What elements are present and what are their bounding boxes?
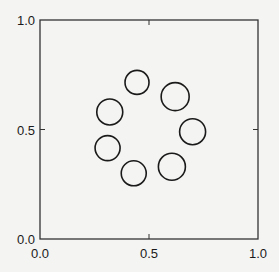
y-tick-label: 1.0 bbox=[17, 13, 35, 28]
x-axis-tick-labels: 0.00.51.0 bbox=[31, 246, 267, 261]
scatter-chart: 0.00.51.0 0.00.51.0 bbox=[0, 0, 279, 272]
open-circle-marker bbox=[121, 161, 146, 186]
open-circle-marker bbox=[158, 153, 185, 180]
open-circle-marker bbox=[97, 99, 123, 125]
x-tick-label: 0.0 bbox=[31, 246, 49, 261]
y-tick-label: 0.5 bbox=[17, 123, 35, 138]
open-circle-marker bbox=[161, 83, 189, 111]
y-axis-tick-labels: 0.00.51.0 bbox=[17, 13, 35, 247]
plot-frame bbox=[40, 20, 258, 239]
open-circle-marker bbox=[95, 136, 120, 161]
y-tick-label: 0.0 bbox=[17, 232, 35, 247]
open-circle-marker bbox=[125, 70, 149, 94]
x-tick-label: 0.5 bbox=[140, 246, 158, 261]
axis-ticks bbox=[40, 20, 258, 239]
x-tick-label: 1.0 bbox=[249, 246, 267, 261]
data-points bbox=[95, 70, 206, 185]
open-circle-marker bbox=[180, 119, 206, 145]
